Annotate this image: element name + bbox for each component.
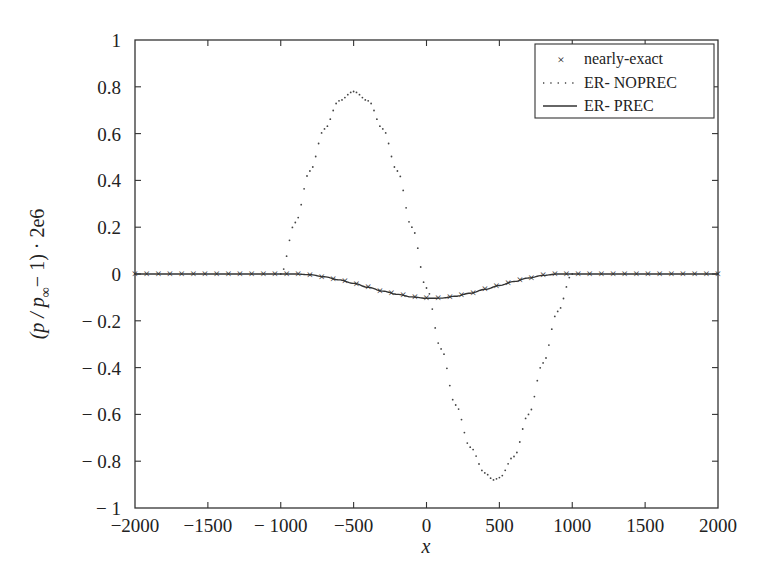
chart: −2000−1500− 1000−5000500100015002000 10.… (0, 0, 763, 569)
y-tick-label: − 0.8 (82, 451, 121, 472)
x-tick-label: 2000 (699, 515, 737, 536)
x-tick-label: −1500 (184, 515, 233, 536)
x-tick-label: 1000 (553, 515, 591, 536)
legend-label: ER- NOPREC (584, 74, 677, 91)
x-marker-icon: × (557, 52, 564, 67)
y-tick-label: 0 (112, 264, 122, 285)
legend-label: ER- PREC (584, 97, 654, 114)
legend-label: nearly-exact (584, 50, 664, 68)
y-axis-title-sub: ∞ (38, 287, 53, 297)
y-tick-label: 1 (112, 30, 122, 51)
y-tick-label: 0.4 (97, 170, 121, 191)
x-tick-label: − 1000 (254, 515, 307, 536)
y-tick-label: − 0.2 (82, 311, 121, 332)
series-nearly-exact: ××××××××××××××××××××××××××××××××××××××××… (132, 267, 722, 305)
x-tick-label: −500 (334, 515, 373, 536)
y-tick-label: − 1 (96, 498, 121, 519)
y-axis-title: (p / p∞− 1) · 2e6 (26, 209, 53, 340)
x-axis-title: x (421, 535, 431, 557)
x-tick-label: 1500 (626, 515, 664, 536)
legend: × nearly-exact ER- NOPREC ER- PREC (535, 44, 714, 118)
y-axis-title-tail: − 1) · 2e6 (26, 209, 49, 287)
x-tick-label: 0 (422, 515, 432, 536)
x-tick-label: 500 (485, 515, 514, 536)
y-tick-label: − 0.6 (82, 404, 121, 425)
y-tick-label: − 0.4 (82, 358, 122, 379)
y-tick-label: 0.8 (97, 77, 121, 98)
svg-text:(p / p∞− 1) · 2e6: (p / p∞− 1) · 2e6 (26, 209, 53, 340)
series-er-noprec (280, 91, 573, 481)
y-axis-title-main: (p / p (26, 297, 49, 339)
series-layer: ××××××××××××××××××××××××××××××××××××××××… (132, 91, 722, 481)
y-tick-label: 0.2 (97, 217, 121, 238)
y-tick-label: 0.6 (97, 124, 121, 145)
